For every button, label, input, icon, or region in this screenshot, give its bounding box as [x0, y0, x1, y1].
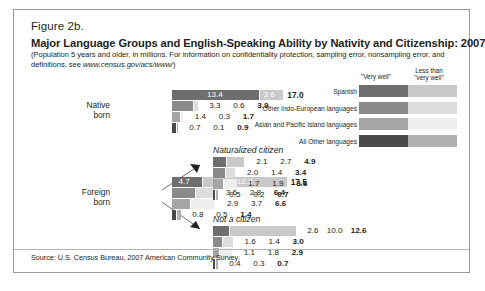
- figure-number: Figure 2b.: [31, 20, 84, 32]
- legend-header: "Very well" Less than "very well": [309, 67, 457, 85]
- bar-value-less-than: 0.1: [201, 123, 225, 133]
- bar-value-total: 0.7: [265, 259, 289, 269]
- source-divider: [14, 249, 469, 250]
- bar-value-very-well: 0.8: [184, 210, 204, 220]
- stacked-bar: [213, 226, 296, 236]
- stacked-bar: [172, 188, 214, 198]
- bar-value-total: 1.7: [230, 112, 254, 122]
- legend-item-3: Asian and Pacific Island languages: [309, 118, 457, 131]
- bar-segment-very-well: [172, 188, 196, 198]
- bar-value-less-than: 3.7: [238, 199, 262, 209]
- legend-swatch-less-than: [408, 102, 457, 114]
- legend-swatch-less-than: [408, 85, 457, 97]
- bar-value-very-well: 1.4: [186, 112, 206, 122]
- bar-value-less-than: 0.3: [241, 259, 265, 269]
- stacked-bar: [172, 210, 181, 220]
- figure-subtitle-tail: ): [173, 60, 175, 69]
- stacked-bar: [213, 237, 233, 247]
- bar-value-group: 1.40.31.7: [186, 112, 254, 122]
- bar-segment-less-than: [223, 237, 232, 247]
- bar-value-total: 3.6: [284, 179, 308, 189]
- bar-segment-less-than: [227, 157, 245, 167]
- bar-value-total: 0.9: [225, 123, 249, 133]
- stacked-bar: [213, 190, 218, 200]
- bar-value-very-well: 2.0: [238, 168, 258, 178]
- bar-value-very-well: 1.7: [240, 179, 260, 189]
- legend-item-4: All Other languages: [309, 135, 457, 148]
- stacked-bar: [213, 168, 235, 178]
- figure-subtitle-url: www.census.gov/acs/www/: [83, 60, 173, 69]
- bar-segment-less-than: [226, 168, 235, 178]
- legend-item-2: Other Indo-European languages: [309, 102, 457, 115]
- bar-value-total: 0.7: [265, 190, 289, 200]
- bar-segment-very-well: [213, 179, 224, 189]
- bar-value-very-well: 2.6: [299, 226, 319, 236]
- bar-value-group: 2.12.74.9: [247, 157, 315, 167]
- bar-value-very-well: 2.1: [247, 157, 267, 167]
- legend-swatch: [359, 118, 457, 130]
- legend-item-1: Spanish: [309, 85, 457, 98]
- bar-value-very-well: 0.7: [181, 123, 201, 133]
- side-label-line: born: [54, 110, 110, 120]
- bar-group-side-label: Nativeborn: [54, 100, 110, 120]
- stacked-bar: [172, 123, 178, 133]
- bar-segment-less-than: [191, 199, 215, 209]
- bar-value-very-well: 13.4: [207, 90, 223, 100]
- stacked-bar: [213, 179, 237, 189]
- chart-legend: "Very well" Less than "very well" Spanis…: [309, 67, 457, 151]
- bar-group-side-label: Foreignborn: [54, 187, 110, 207]
- legend-swatch-less-than: [408, 118, 457, 130]
- legend-header-less-than: Less than "very well": [405, 67, 453, 82]
- stacked-bar: [213, 157, 244, 167]
- bar-value-less-than: 0.3: [206, 112, 230, 122]
- figure-title: Major Language Groups and English-Speaki…: [31, 37, 451, 49]
- bar-value-less-than: 1.4: [258, 168, 282, 178]
- bar-value-total: 4.9: [291, 157, 315, 167]
- bar-value-group: 0.50.20.7: [221, 190, 289, 200]
- bar-value-less-than: 2.7: [267, 157, 291, 167]
- bar-value-total: 17.0: [287, 90, 303, 100]
- bar-segment-very-well: [172, 101, 194, 111]
- legend-swatch: [359, 102, 457, 114]
- legend-swatch-very-well: [359, 85, 408, 97]
- bar-value-very-well: 2.9: [218, 199, 238, 209]
- bar-segment-less-than: [177, 210, 180, 220]
- bar-segment-less-than: [177, 123, 178, 133]
- figure-panel: Figure 2b. Major Language Groups and Eng…: [13, 9, 470, 273]
- legend-swatch-very-well: [359, 118, 408, 130]
- legend-header-very-well: "Very well": [355, 73, 397, 80]
- bar-value-total: 12.6: [343, 226, 367, 236]
- figure-source: Source: U.S. Census Bureau, 2007 America…: [31, 253, 240, 262]
- bar-group-title: Not a citizen: [213, 214, 260, 224]
- bar-value-less-than: 10.0: [319, 226, 343, 236]
- bar-value-less-than: 0.2: [241, 190, 265, 200]
- legend-item-label: Spanish: [333, 86, 357, 97]
- legend-item-label: Asian and Pacific Island languages: [255, 119, 357, 130]
- bar-segment-very-well: [172, 199, 191, 209]
- bar-value-group: 2.610.012.6: [299, 226, 367, 236]
- bar-value-total: 3.4: [282, 168, 306, 178]
- legend-swatch-very-well: [359, 102, 408, 114]
- bar-segment-very-well: [172, 112, 181, 122]
- side-label-line: Native: [54, 100, 110, 110]
- stacked-bar: [172, 112, 183, 122]
- bar-segment-less-than: [224, 179, 236, 189]
- legend-swatch: [359, 85, 457, 97]
- bar-value-less-than: 1.9: [260, 179, 284, 189]
- side-label-line: Foreign: [54, 187, 110, 197]
- bar-segment-less-than: [230, 226, 296, 236]
- bar-segment-very-well: [213, 168, 226, 178]
- legend-swatch-less-than: [408, 135, 457, 147]
- legend-swatch: [359, 135, 457, 147]
- bar-value-group: 2.93.76.6: [218, 199, 286, 209]
- bar-value-very-well: 1.6: [236, 237, 256, 247]
- legend-item-label: Other Indo-European languages: [263, 103, 357, 114]
- side-label-line: born: [54, 197, 110, 207]
- bar-segment-very-well: [213, 226, 230, 236]
- bar-value-group: 3.30.63.9: [201, 101, 269, 111]
- stacked-bar: [172, 101, 198, 111]
- bar-value-less-than: 0.6: [221, 101, 245, 111]
- bar-segment-less-than: [216, 190, 217, 200]
- bar-value-group: 0.70.10.9: [181, 123, 249, 133]
- bar-segment-very-well: [213, 157, 227, 167]
